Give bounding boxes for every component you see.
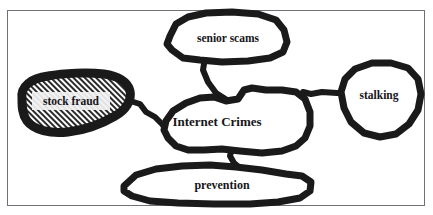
senior-scams-label: senior scams	[197, 32, 260, 44]
stock-fraud-label: stock fraud	[43, 95, 100, 107]
prevention-label: prevention	[194, 178, 249, 192]
node-senior-scams[interactable]: senior scams	[167, 12, 287, 62]
internet-crimes-label: Internet Crimes	[172, 114, 261, 129]
node-stock-fraud[interactable]: stock fraud	[22, 73, 131, 133]
edge-stalking-to-internet-crimes	[303, 92, 337, 94]
node-stalking[interactable]: stalking	[341, 63, 421, 137]
stalking-label: stalking	[360, 89, 399, 102]
concept-map-canvas: stock fraud senior scams stalking Intern…	[0, 0, 433, 215]
node-internet-crimes[interactable]: Internet Crimes	[164, 88, 310, 153]
diagram-page: stock fraud senior scams stalking Intern…	[0, 0, 433, 215]
node-prevention[interactable]: prevention	[124, 165, 311, 204]
